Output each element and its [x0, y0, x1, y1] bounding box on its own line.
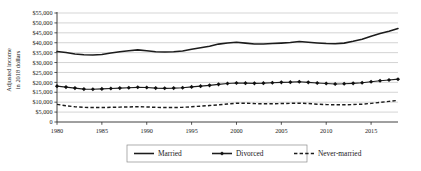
chart-legend: MarriedDivorcedNever-married [127, 145, 362, 162]
data-point-marker [154, 86, 158, 90]
data-point-marker [243, 81, 247, 85]
data-point-marker [91, 87, 95, 91]
data-point-marker [127, 86, 131, 90]
data-point-marker [145, 85, 149, 89]
data-point-marker [252, 81, 256, 85]
y-tick-label: $10,000 [32, 98, 52, 105]
data-point-marker [190, 85, 194, 89]
y-tick-label: $15,000 [32, 88, 52, 95]
y-tick-label: $20,000 [32, 79, 52, 86]
y-tick-label: $25,000 [32, 69, 52, 76]
y-tick-label: $50,000 [32, 19, 52, 26]
x-axis-tick-labels: 19801985199019952000200520102015 [51, 127, 377, 134]
chart-canvas: Adjusted income in 2018 dollars $55,000$… [0, 0, 421, 171]
data-point-marker [288, 80, 292, 84]
data-point-marker [199, 84, 203, 88]
y-tick-label: $5,000 [35, 108, 52, 115]
y-axis-title: Adjusted income in 2018 dollars [5, 48, 21, 92]
data-point-marker [270, 81, 274, 85]
data-point-marker [64, 85, 68, 89]
data-point-marker [181, 86, 185, 90]
x-tick-label: 1980 [51, 127, 63, 134]
data-point-marker [396, 77, 400, 81]
data-point-marker [387, 78, 391, 82]
data-point-marker [136, 85, 140, 89]
x-tick-label: 1995 [185, 127, 197, 134]
income-by-marital-status-chart: Adjusted income in 2018 dollars $55,000$… [0, 0, 421, 171]
x-tick-label: 2005 [275, 127, 287, 134]
data-point-marker [172, 86, 176, 90]
x-tick-label: 2000 [230, 127, 242, 134]
series-line-nevermarried [57, 100, 398, 107]
data-point-marker [360, 81, 364, 85]
data-point-marker [351, 81, 355, 85]
y-axis-tick-labels: $55,000$50,000$45,000$40,000$35,000$30,0… [32, 9, 52, 125]
data-point-marker [369, 80, 373, 84]
data-point-marker [234, 81, 238, 85]
data-point-marker [279, 80, 283, 84]
data-point-marker [118, 86, 122, 90]
y-tick-label: $30,000 [32, 59, 52, 66]
x-tick-label: 1985 [96, 127, 108, 134]
x-tick-label: 1990 [141, 127, 153, 134]
y-tick-label: $55,000 [32, 9, 52, 16]
data-point-marker [315, 81, 319, 85]
y-tick-label: $40,000 [32, 39, 52, 46]
data-point-marker [216, 82, 220, 86]
data-point-marker [55, 84, 59, 88]
y-axis-title-line2: in 2018 dollars [14, 50, 21, 89]
data-point-marker [82, 87, 86, 91]
x-tick-label: 2015 [365, 127, 377, 134]
y-axis-title-line1: Adjusted income [5, 48, 12, 92]
data-point-marker [261, 81, 265, 85]
data-point-marker [208, 83, 212, 87]
legend-label-nevermarried: Never-married [318, 149, 362, 158]
data-point-marker [306, 80, 310, 84]
series-line-married [57, 28, 398, 55]
plot-series-group [55, 28, 400, 107]
y-tick-label: 0 [49, 118, 52, 125]
data-point-marker [73, 86, 77, 90]
data-point-marker [100, 87, 104, 91]
y-tick-label: $45,000 [32, 29, 52, 36]
gridlines [57, 13, 398, 112]
data-point-marker [109, 86, 113, 90]
legend-label-married: Married [158, 149, 182, 158]
legend-label-divorced: Divorced [236, 149, 264, 158]
data-point-marker [297, 80, 301, 84]
y-tick-label: $35,000 [32, 49, 52, 56]
data-point-marker [163, 86, 167, 90]
x-tick-label: 2010 [320, 127, 332, 134]
